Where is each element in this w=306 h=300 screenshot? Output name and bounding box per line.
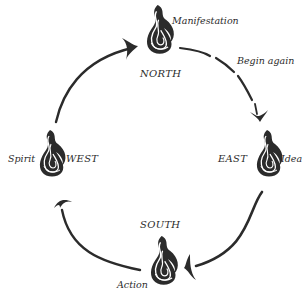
flame-icon-east bbox=[257, 130, 283, 177]
flame-icon-west bbox=[40, 130, 66, 177]
arrow-west-to-north bbox=[56, 38, 138, 122]
label-west: WEST bbox=[66, 154, 98, 164]
flame-icon-south bbox=[151, 236, 178, 285]
label-action: Action bbox=[117, 280, 148, 290]
label-spirit: Spirit bbox=[8, 154, 35, 164]
label-south: SOUTH bbox=[140, 220, 180, 230]
arrow-east-to-south bbox=[184, 192, 262, 280]
label-north: NORTH bbox=[140, 69, 181, 79]
label-east: EAST bbox=[218, 154, 247, 164]
label-begin-again: Begin again bbox=[237, 56, 294, 66]
arrow-south-to-west bbox=[54, 200, 140, 270]
label-manifestation: Manifestation bbox=[172, 16, 239, 26]
four-directions-cycle-diagram: Manifestation NORTH Begin again EAST Ide… bbox=[0, 0, 306, 300]
label-idea: Idea bbox=[281, 154, 302, 164]
diagram-canvas bbox=[0, 0, 306, 300]
flame-icon-north bbox=[147, 5, 174, 54]
